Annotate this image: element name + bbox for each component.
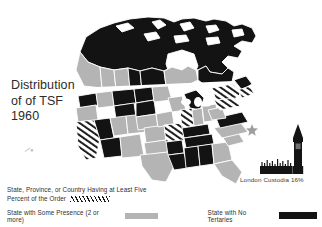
legend-swatch-black [279, 212, 317, 219]
star-marker-icon [246, 124, 258, 136]
map-region-oregon [76, 105, 98, 122]
map-svg [56, 10, 266, 190]
map-region-arizona [100, 137, 122, 158]
london-custodia-caption: London Custodia 16% [240, 176, 304, 183]
legend-item-five-percent: State, Province, or Country Having at Le… [7, 186, 317, 194]
slide-canvas: Distribution of of TSF 1960 [0, 0, 322, 227]
legend-label-five-percent-line2: Percent of the Order [7, 195, 66, 203]
legend-label-no-tertaries: State with No Tertaries [208, 209, 273, 223]
map-region-alabama [198, 144, 214, 166]
stray-mark-icon [24, 146, 36, 154]
legend-label-five-percent-line1: State, Province, or Country Having at Le… [7, 186, 147, 193]
legend-swatch-hatch [70, 196, 110, 202]
map-region-new-mexico [120, 134, 144, 158]
legend-row-bottom: State with Some Presence (2 or more) Sta… [7, 209, 317, 223]
north-america-map [56, 10, 266, 190]
map-region-mississippi [184, 146, 200, 168]
legend-swatch-gray [125, 213, 159, 220]
map-region-idaho [96, 91, 114, 108]
legend-item-five-percent-row2: Percent of the Order [7, 195, 317, 203]
map-region-missouri [164, 123, 184, 142]
big-ben-icon [258, 122, 314, 174]
map-region-florida [214, 160, 242, 184]
map-region-arkansas [166, 140, 184, 155]
legend-label-some-presence: State with Some Presence (2 or more) [7, 209, 117, 223]
legend: State, Province, or Country Having at Le… [7, 186, 317, 223]
